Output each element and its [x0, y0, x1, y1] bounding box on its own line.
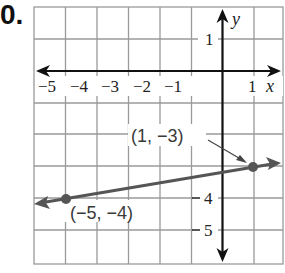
annotation-leader	[208, 140, 247, 163]
x-tick-label: −4	[70, 77, 89, 96]
point-label: (1, −3)	[131, 126, 184, 146]
point-label: (−5, −4)	[70, 203, 133, 223]
x-tick-label: −2	[133, 77, 151, 96]
x-tick-label: −1	[164, 77, 182, 96]
y-tick-label: 5	[204, 221, 213, 240]
x-axis-label: x	[265, 76, 274, 96]
y-axis	[217, 9, 229, 262]
x-tick-label: −3	[101, 77, 119, 96]
point-marker	[248, 162, 258, 172]
x-axis	[36, 65, 281, 77]
leader-arrow-icon	[236, 155, 247, 163]
y-tick-label: 1	[205, 30, 214, 49]
y-axis-label: y	[230, 9, 240, 29]
x-tick-label: 1	[248, 77, 257, 96]
x-tick-label: −5	[38, 77, 56, 96]
coordinate-plane: −5 −4 −3 −2 −1 1 x y 1 4 5 (1, −3) (−5, …	[0, 0, 285, 273]
y-tick-label: 4	[204, 189, 213, 208]
